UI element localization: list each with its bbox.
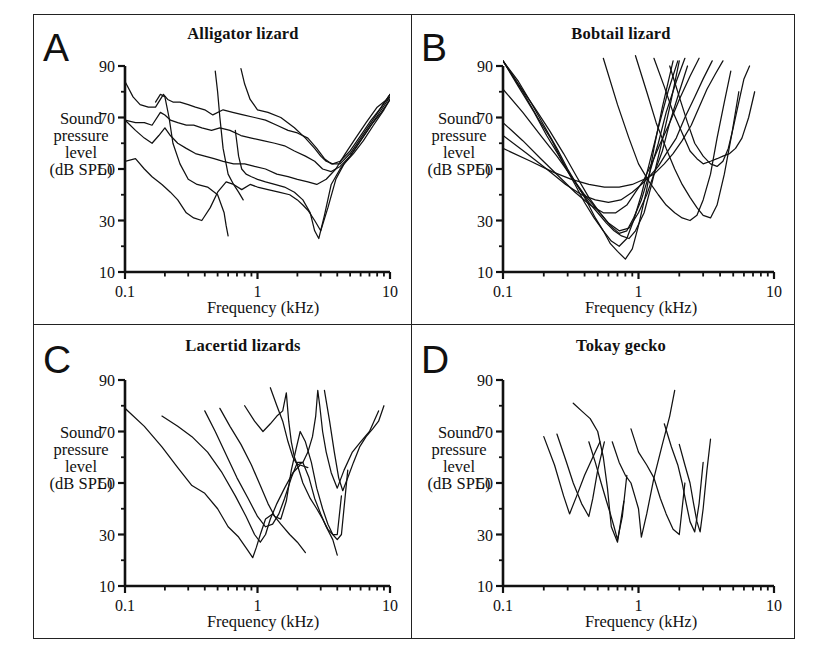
tuning-curve [125,99,390,230]
figure-root: A Alligator lizard Sound pressure level … [0,0,829,653]
y-tick-label: 70 [99,424,115,441]
y-tick-label: 50 [477,475,493,492]
tuning-curve [635,56,738,218]
x-tick-label: 1 [635,597,643,614]
tuning-curve [670,66,750,166]
tuning-curve [241,69,390,164]
y-tick-label: 30 [477,527,493,544]
tuning-curve [503,61,723,187]
panel-c: C Lacertid lizards Sound pressure level … [33,324,411,639]
y-tick-label: 90 [477,58,493,75]
tuning-curve [503,61,678,246]
x-tick-label: 10 [382,283,398,300]
x-tick-label: 10 [382,597,398,614]
panel-b-plot: 90705030100.1110 [411,14,795,324]
x-tick-label: 0.1 [493,597,513,614]
y-tick-label: 50 [477,161,493,178]
tuning-curve [220,408,342,534]
y-tick-label: 30 [99,213,115,230]
y-tick-label: 90 [99,372,115,389]
tuning-curve [679,439,710,532]
y-tick-label: 10 [477,264,493,281]
x-tick-label: 10 [766,597,782,614]
y-tick-label: 50 [99,475,115,492]
tuning-curves-layer [544,390,711,542]
tuning-curve [205,411,337,555]
tuning-curves-layer [125,388,384,558]
tuning-curve [664,424,703,532]
y-tick-label: 10 [99,264,115,281]
tuning-curve [215,71,243,200]
panel-c-plot: 90705030100.1110 [33,324,411,639]
tuning-curves-layer [503,56,755,259]
y-tick-label: 30 [477,213,493,230]
tuning-curves-layer [125,69,390,239]
y-tick-label: 30 [99,527,115,544]
x-tick-label: 0.1 [115,597,135,614]
tuning-curve [603,58,730,220]
y-tick-label: 10 [99,578,115,595]
y-tick-label: 70 [477,424,493,441]
x-tick-label: 1 [254,597,262,614]
y-tick-label: 70 [477,110,493,127]
panel-a-plot: 90705030100.1110 [33,14,411,324]
y-tick-label: 10 [477,578,493,595]
y-tick-label: 70 [99,110,115,127]
x-tick-label: 0.1 [493,283,513,300]
x-tick-label: 1 [635,283,643,300]
x-tick-label: 10 [766,283,782,300]
panel-d: D Tokay gecko Sound pressure level (dB S… [411,324,795,639]
y-tick-label: 90 [99,58,115,75]
tuning-curve [503,58,699,213]
panel-b: B Bobtail lizard Sound pressure level (d… [411,14,795,324]
y-tick-label: 90 [477,372,493,389]
y-tick-label: 50 [99,161,115,178]
x-tick-label: 0.1 [115,283,135,300]
x-tick-label: 1 [254,283,262,300]
panel-d-plot: 90705030100.1110 [411,324,795,639]
panel-a: A Alligator lizard Sound pressure level … [33,14,411,324]
tuning-curve [324,390,384,490]
